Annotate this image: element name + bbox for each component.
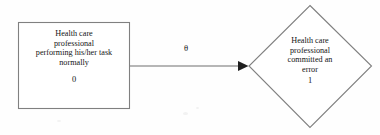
state-code-normal: 0 xyxy=(19,75,129,85)
state-label-error-line-1: Health care xyxy=(266,36,354,46)
state-label-error-line-4: error xyxy=(266,65,354,75)
state-label-normal-line-3: performing his/her task xyxy=(19,48,129,58)
transition-arrow-head xyxy=(238,61,249,71)
state-label-normal-line-1: Health care xyxy=(19,29,129,39)
state-label-error: Health care professional committed an er… xyxy=(266,36,354,86)
state-label-normal-line-2: professional xyxy=(19,39,129,49)
state-code-error: 1 xyxy=(266,76,354,86)
state-label-error-line-3: committed an xyxy=(266,55,354,65)
state-label-normal: Health care professional performing his/… xyxy=(19,29,129,85)
transition-label-theta: θ xyxy=(174,43,198,53)
state-label-error-line-2: professional xyxy=(266,46,354,56)
state-label-normal-line-4: normally xyxy=(19,58,129,68)
diagram-canvas: Health care professional performing his/… xyxy=(0,0,380,135)
